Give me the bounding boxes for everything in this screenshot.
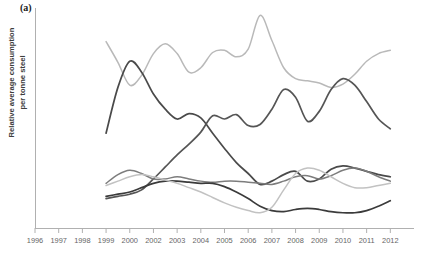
data-line-series-3 [106, 79, 390, 199]
x-axis-tick-label: 2009 [311, 236, 327, 245]
x-axis-tick-label: 2003 [169, 236, 185, 245]
x-axis-tick-label: 2006 [240, 236, 256, 245]
x-axis-tick-label: 2011 [359, 236, 375, 245]
x-axis-tick-label: 2000 [122, 236, 138, 245]
data-line-series-1 [106, 15, 390, 87]
x-axis-tick-label: 1996 [27, 236, 43, 245]
x-axis-tick-label: 2012 [382, 236, 398, 245]
x-axis-tick-label: 1998 [74, 236, 90, 245]
x-axis-tick-label: 1997 [50, 236, 66, 245]
x-axis-tick-label: 2007 [264, 236, 280, 245]
x-axis-tick-label: 2010 [335, 236, 351, 245]
x-axis-tick-label: 2004 [193, 236, 209, 245]
data-series-group [106, 15, 390, 213]
x-axis-tick-label: 2005 [216, 236, 232, 245]
figure-panel: (a) Relative average consumption per ton… [0, 0, 423, 254]
x-axis-tick-label: 2002 [145, 236, 161, 245]
x-axis-tick-label: 1999 [98, 236, 114, 245]
x-axis-tick-label: 2008 [287, 236, 303, 245]
chart-plot-area [0, 0, 423, 254]
